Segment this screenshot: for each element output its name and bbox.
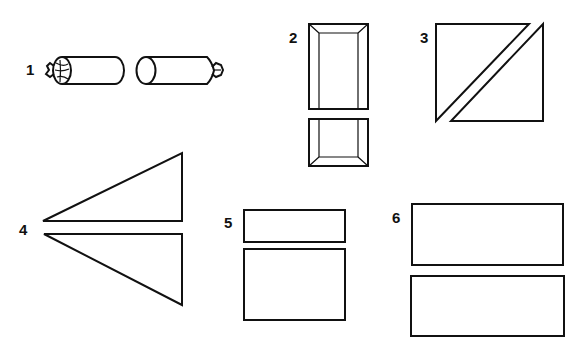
item-1-cylinders xyxy=(46,57,223,84)
upper-triangle xyxy=(43,153,182,221)
item-2-beveled-boxes xyxy=(309,24,368,166)
item-6-wide-rectangles xyxy=(411,204,564,336)
lower-wide-rectangle xyxy=(411,276,564,336)
lower-right-triangle xyxy=(451,24,543,121)
diagram-canvas: 1 2 3 4 5 6 xyxy=(0,0,577,360)
upper-left-triangle xyxy=(436,24,529,121)
beveled-box-short xyxy=(309,119,368,166)
large-rectangle xyxy=(244,249,345,320)
small-rectangle xyxy=(244,210,345,242)
beveled-box-tall xyxy=(309,24,368,109)
diagram-shapes xyxy=(0,0,577,360)
right-cylinder-icon xyxy=(137,57,224,84)
upper-wide-rectangle xyxy=(412,204,563,265)
item-4-mirrored-triangles xyxy=(43,153,182,305)
item-3-diagonal-triangles xyxy=(436,24,543,121)
item-5-stacked-rectangles xyxy=(244,210,345,320)
lower-triangle xyxy=(44,234,182,305)
left-cylinder-icon xyxy=(46,57,124,84)
